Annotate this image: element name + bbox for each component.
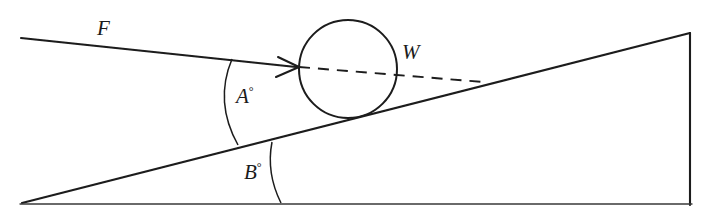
weight-label: W bbox=[402, 42, 420, 63]
angle-a-label: A° bbox=[236, 85, 254, 107]
degree-symbol-a: ° bbox=[249, 84, 254, 98]
force-label: F bbox=[97, 18, 110, 39]
degree-symbol-b: ° bbox=[257, 160, 262, 174]
applied-force-line bbox=[21, 38, 296, 67]
angle-b-arc bbox=[270, 142, 281, 203]
angle-b-label: B° bbox=[244, 161, 262, 183]
force-diagram-figure: F W A° B° bbox=[0, 0, 701, 217]
weight-dashed-line bbox=[299, 67, 483, 82]
ball-circle bbox=[299, 20, 397, 118]
